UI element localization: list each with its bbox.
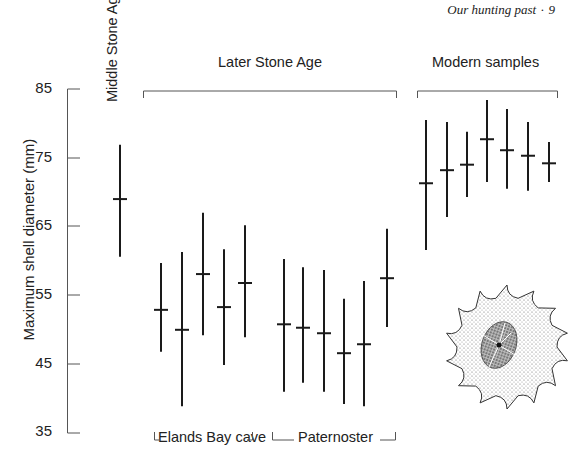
y-axis <box>68 89 81 433</box>
limpet-shell-illustration <box>447 285 568 409</box>
chart-canvas <box>0 0 569 449</box>
